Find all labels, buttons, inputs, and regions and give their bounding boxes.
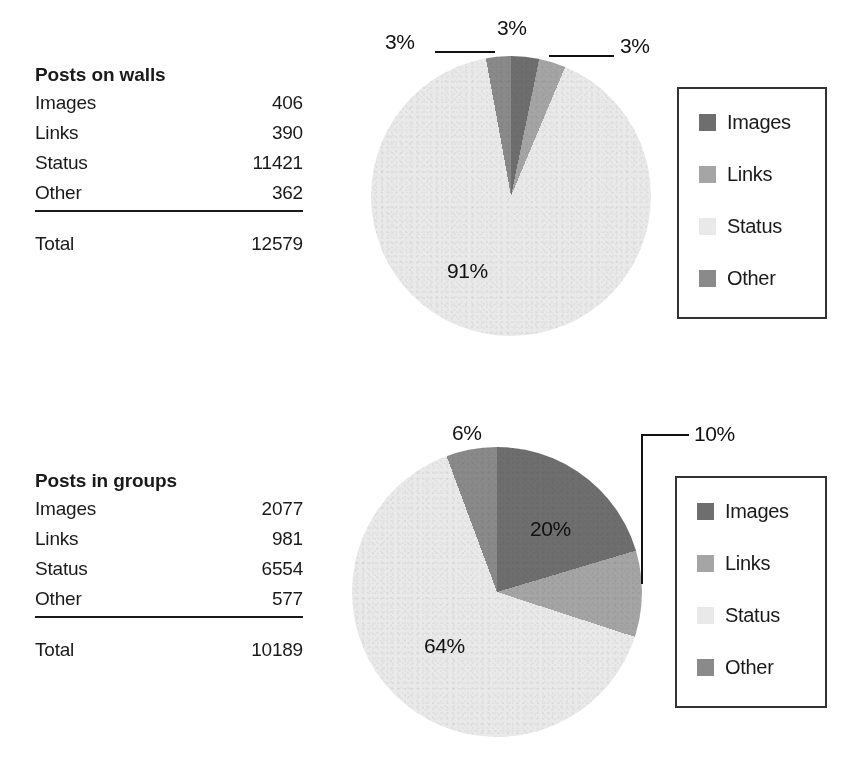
table-total-row: Total 12579 xyxy=(35,229,303,259)
groups-status-percent: 64% xyxy=(424,634,465,658)
walls-links-leader-line xyxy=(549,55,614,57)
groups-table: Posts in groups Images 2077 Links 981 St… xyxy=(35,468,303,665)
row-value: 390 xyxy=(272,118,303,148)
legend-label: Other xyxy=(725,656,774,679)
legend-label: Status xyxy=(727,215,782,238)
row-label: Links xyxy=(35,524,78,554)
pie-texture xyxy=(371,56,651,336)
row-value: 362 xyxy=(272,178,303,208)
pie-texture xyxy=(352,447,642,737)
row-value: 981 xyxy=(272,524,303,554)
row-value: 11421 xyxy=(253,148,303,178)
legend-label: Images xyxy=(725,500,789,523)
chart-page: { "colors": { "images": "#6e6e6e", "link… xyxy=(0,0,863,761)
legend-label: Images xyxy=(727,111,791,134)
images-color-swatch xyxy=(697,503,714,520)
table-total-row: Total 10189 xyxy=(35,635,303,665)
legend-label: Links xyxy=(725,552,770,575)
table-row: Links 981 xyxy=(35,524,303,554)
links-color-swatch xyxy=(697,555,714,572)
groups-table-header: Posts in groups xyxy=(35,468,303,494)
legend-label: Status xyxy=(725,604,780,627)
other-color-swatch xyxy=(697,659,714,676)
table-row: Images 2077 xyxy=(35,494,303,524)
legend-item-other: Other xyxy=(697,656,774,679)
walls-pie-chart xyxy=(371,56,651,336)
row-label: Images xyxy=(35,88,96,118)
walls-links-percent: 3% xyxy=(620,34,650,58)
legend-item-links: Links xyxy=(699,163,772,186)
legend-label: Links xyxy=(727,163,772,186)
row-label: Status xyxy=(35,148,88,178)
row-value: 6554 xyxy=(262,554,303,584)
groups-images-percent: 20% xyxy=(530,517,571,541)
total-value: 10189 xyxy=(251,635,303,665)
row-label: Other xyxy=(35,178,82,208)
walls-table: Posts on walls Images 406 Links 390 Stat… xyxy=(35,62,303,259)
row-value: 406 xyxy=(272,88,303,118)
row-label: Links xyxy=(35,118,78,148)
legend-item-images: Images xyxy=(699,111,791,134)
walls-table-header: Posts on walls xyxy=(35,62,303,88)
row-label: Status xyxy=(35,554,88,584)
other-color-swatch xyxy=(699,270,716,287)
groups-links-percent: 10% xyxy=(694,422,735,446)
total-label: Total xyxy=(35,635,74,665)
row-label: Other xyxy=(35,584,82,614)
walls-images-percent: 3% xyxy=(497,16,527,40)
total-value: 12579 xyxy=(251,229,303,259)
images-color-swatch xyxy=(699,114,716,131)
groups-legend: Images Links Status Other xyxy=(675,476,827,708)
walls-other-percent: 3% xyxy=(385,30,415,54)
status-color-swatch xyxy=(699,218,716,235)
groups-links-leader-vertical xyxy=(641,434,643,584)
row-value: 577 xyxy=(272,584,303,614)
links-color-swatch xyxy=(699,166,716,183)
groups-links-leader-horizontal xyxy=(641,434,689,436)
legend-item-status: Status xyxy=(699,215,782,238)
status-color-swatch xyxy=(697,607,714,624)
table-row: Status 11421 xyxy=(35,148,303,178)
table-row: Links 390 xyxy=(35,118,303,148)
total-label: Total xyxy=(35,229,74,259)
legend-item-links: Links xyxy=(697,552,770,575)
legend-item-other: Other xyxy=(699,267,776,290)
groups-pie-chart xyxy=(352,447,642,737)
table-rule xyxy=(35,210,303,212)
row-value: 2077 xyxy=(262,494,303,524)
table-row: Other 577 xyxy=(35,584,303,614)
legend-item-status: Status xyxy=(697,604,780,627)
walls-other-leader-line xyxy=(435,51,495,53)
legend-item-images: Images xyxy=(697,500,789,523)
table-row: Other 362 xyxy=(35,178,303,208)
groups-other-percent: 6% xyxy=(452,421,482,445)
row-label: Images xyxy=(35,494,96,524)
walls-legend: Images Links Status Other xyxy=(677,87,827,319)
table-row: Images 406 xyxy=(35,88,303,118)
walls-status-percent: 91% xyxy=(447,259,488,283)
table-row: Status 6554 xyxy=(35,554,303,584)
table-rule xyxy=(35,616,303,618)
legend-label: Other xyxy=(727,267,776,290)
